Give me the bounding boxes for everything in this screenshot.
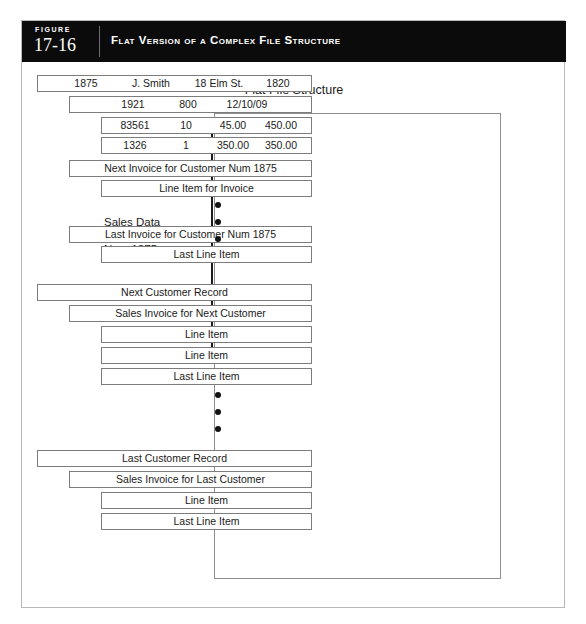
record-row-last-customer-record: Last Customer Record [37, 450, 312, 467]
ellipsis-dot [215, 202, 221, 208]
record-field: 12/10/09 [212, 97, 282, 112]
record-field: 10 [164, 118, 208, 133]
record-row-invoice-record-1921: 192180012/10/09 [69, 96, 312, 113]
record-row-next-invoice-1875: Next Invoice for Customer Num 1875 [69, 160, 312, 177]
record-field: 1921 [106, 97, 160, 112]
record-row-last-line-item-last: Last Line Item [101, 513, 312, 530]
record-label: Sales Invoice for Last Customer [70, 472, 311, 487]
record-row-line-item-last: Line Item [101, 492, 312, 509]
record-row-line-item-next-1: Line Item [101, 326, 312, 343]
record-row-last-line-item-1875: Last Line Item [101, 246, 312, 263]
record-label: Next Invoice for Customer Num 1875 [70, 161, 311, 176]
record-row-line-item-1326: 13261350.00350.00 [101, 137, 312, 154]
figure-label-word: FIGURE [34, 25, 96, 34]
record-label: Line Item [102, 348, 311, 363]
record-label: Line Item for Invoice [102, 181, 311, 196]
record-row-sales-invoice-last-customer: Sales Invoice for Last Customer [69, 471, 312, 488]
record-label: Last Invoice for Customer Num 1875 [70, 227, 311, 242]
record-field: 1820 [252, 76, 304, 91]
record-label: Next Customer Record [38, 285, 311, 300]
record-field: 450.00 [254, 118, 308, 133]
record-row-last-line-item-next: Last Line Item [101, 368, 312, 385]
record-label: Line Item [102, 327, 311, 342]
record-label: Sales Invoice for Next Customer [70, 306, 311, 321]
record-field: 350.00 [254, 138, 308, 153]
record-row-line-item-for-invoice: Line Item for Invoice [101, 180, 312, 197]
ellipsis-first-customer [212, 202, 224, 242]
record-row-line-item-next-2: Line Item [101, 347, 312, 364]
record-label: Last Line Item [102, 247, 311, 262]
record-label: Line Item [102, 493, 311, 508]
record-row-line-item-83561: 835611045.00450.00 [101, 117, 312, 134]
record-field: 800 [166, 97, 210, 112]
ellipsis-dot [215, 409, 221, 415]
record-field: 45.00 [206, 118, 260, 133]
ellipsis-dot [215, 219, 221, 225]
diagram-canvas: Flat File Structure Sales Data for Custo… [22, 62, 566, 608]
figure-header-bar: FIGURE 17-16 Flat Version of a Complex F… [22, 21, 566, 62]
ellipsis-dot [215, 236, 221, 242]
record-field: 18 Elm St. [184, 76, 254, 91]
record-label: Last Line Item [102, 369, 311, 384]
ellipsis-last-customer [212, 392, 224, 432]
record-label: Last Customer Record [38, 451, 311, 466]
record-field: 1326 [108, 138, 162, 153]
figure-frame: FIGURE 17-16 Flat Version of a Complex F… [21, 20, 565, 608]
ellipsis-dot [215, 392, 221, 398]
record-field: 83561 [108, 118, 162, 133]
ellipsis-dot [215, 426, 221, 432]
record-row-customer-record-1875: 1875J. Smith18 Elm St.1820 [37, 75, 312, 92]
record-row-last-invoice-1875: Last Invoice for Customer Num 1875 [69, 226, 312, 243]
record-row-sales-invoice-next-customer: Sales Invoice for Next Customer [69, 305, 312, 322]
record-field: 1875 [56, 76, 116, 91]
record-field: 350.00 [206, 138, 260, 153]
figure-identifier: FIGURE 17-16 [34, 25, 96, 58]
record-field: 1 [164, 138, 208, 153]
record-label: Last Line Item [102, 514, 311, 529]
record-row-next-customer-record: Next Customer Record [37, 284, 312, 301]
figure-number: 17-16 [34, 35, 96, 55]
figure-title: Flat Version of a Complex File Structure [111, 34, 341, 46]
record-field: J. Smith [118, 76, 184, 91]
header-divider [99, 26, 100, 57]
